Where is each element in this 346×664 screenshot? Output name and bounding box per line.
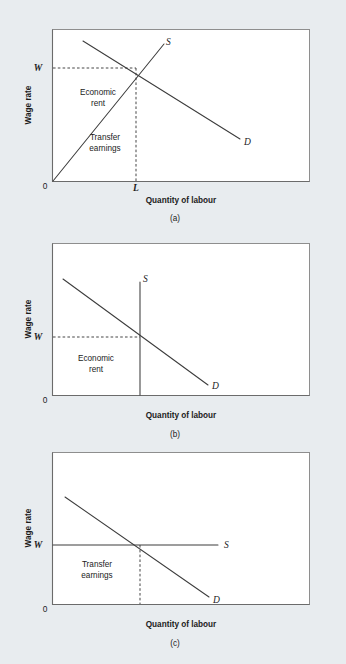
origin-label-c: 0 [43, 604, 48, 614]
origin-label-b: 0 [43, 395, 48, 405]
panel-a: S D W L 0 Economic rent Transfer earning… [0, 0, 346, 230]
supply-label-a: S [166, 37, 171, 47]
economic-rent-label-a-line1: Economic [80, 88, 116, 97]
caption-c: (c) [170, 639, 180, 648]
transfer-earnings-label-a-line1: Transfer [90, 133, 120, 142]
x-axis-title-c: Quantity of labour [146, 620, 217, 629]
y-axis-title-c: Wage rate [24, 508, 33, 547]
y-axis-title-b: Wage rate [24, 299, 33, 338]
economic-rent-label-b-line1: Economic [78, 354, 114, 363]
demand-label-a: D [243, 137, 251, 147]
transfer-earnings-label-a-line2: earnings [89, 144, 120, 153]
plot-frame-c [53, 453, 310, 605]
caption-a: (a) [170, 214, 180, 223]
x-axis-title-b: Quantity of labour [146, 411, 217, 420]
figure-root: S D W L 0 Economic rent Transfer earning… [0, 0, 346, 664]
demand-label-c: D [212, 595, 220, 605]
transfer-earnings-label-c-line2: earnings [81, 571, 112, 580]
economic-rent-label-b-line2: rent [89, 365, 104, 374]
x-axis-title-a: Quantity of labour [146, 196, 217, 205]
y-axis-title-a: Wage rate [24, 85, 33, 124]
supply-label-c: S [224, 540, 229, 550]
wage-mark-a: W [34, 63, 43, 73]
wage-mark-b: W [34, 332, 43, 342]
supply-label-b: S [143, 274, 148, 284]
demand-label-b: D [211, 381, 219, 391]
panel-c: S D W 0 Transfer earnings Wage rate Quan… [0, 445, 346, 664]
quantity-mark-a: L [132, 183, 139, 193]
panel-b: S D W 0 Economic rent Wage rate Quantity… [0, 230, 346, 445]
economic-rent-label-a-line2: rent [91, 99, 106, 108]
caption-b: (b) [170, 430, 180, 439]
transfer-earnings-label-c-line1: Transfer [82, 560, 112, 569]
wage-mark-c: W [34, 540, 43, 550]
origin-label-a: 0 [43, 181, 48, 191]
